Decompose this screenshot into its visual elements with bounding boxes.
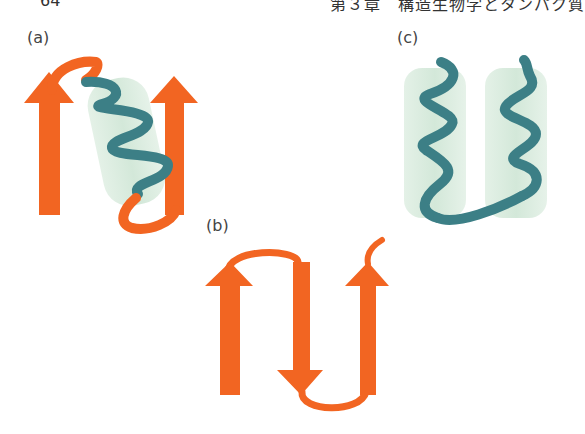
- beta-strand-arrow-b2: [277, 262, 323, 395]
- strand-tail-b3: [368, 240, 382, 264]
- loop-b-top: [228, 253, 298, 272]
- loop-b-bottom: [302, 392, 366, 408]
- panel-c-motif: [404, 60, 547, 220]
- panel-b-motif: [205, 240, 389, 408]
- beta-strand-arrow-b3: [345, 262, 389, 395]
- beta-strand-arrow-b1: [205, 262, 253, 395]
- panel-a-motif: [24, 62, 198, 229]
